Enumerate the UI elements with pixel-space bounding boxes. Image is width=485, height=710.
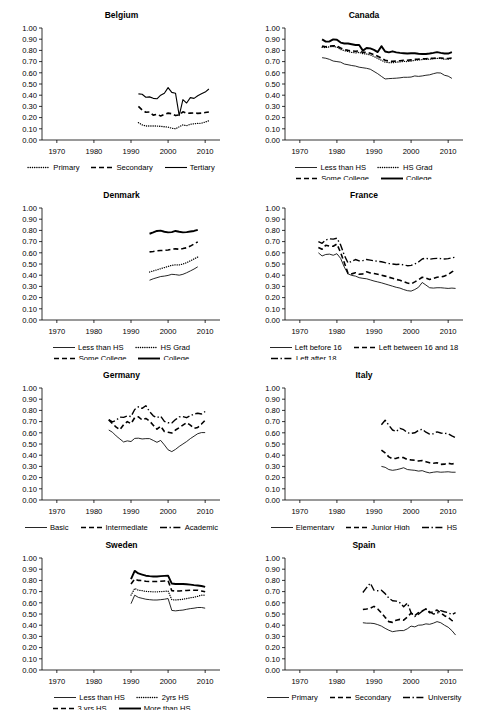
y-tick-label: 0.70	[22, 587, 37, 596]
legend-item-hs-grad[interactable]: HS Grad	[136, 342, 191, 353]
legend-swatch-icon	[53, 344, 75, 351]
legend-item-hs-grad[interactable]: HS Grad	[378, 162, 433, 173]
panel-legend: ElementaryJunior HighHS	[243, 522, 485, 530]
x-tick-label: 1990	[366, 507, 383, 516]
series-line-more-than-hs	[131, 571, 205, 587]
legend-item-less-than-hs[interactable]: Less than HS	[54, 692, 125, 703]
series-line-some-college	[150, 242, 198, 252]
legend-label: More than HS	[144, 703, 191, 710]
x-tick-label: 1990	[366, 147, 383, 156]
chart-grid: Belgium1.000.900.800.700.600.500.400.300…	[0, 0, 485, 710]
legend-item-secondary[interactable]: Secondary	[330, 692, 391, 703]
y-tick-label: 0.60	[265, 249, 280, 258]
legend-item-3-yrs-hs[interactable]: 3 yrs HS	[53, 703, 107, 710]
x-tick-label: 1980	[328, 327, 345, 336]
y-tick-label: 0.20	[22, 473, 37, 482]
x-tick-label: 2000	[403, 327, 420, 336]
legend-item-less-than-hs[interactable]: Less than HS	[295, 162, 366, 173]
y-tick-label: 0.30	[22, 102, 37, 111]
y-tick-label: 0.80	[265, 406, 280, 415]
x-tick-label: 1970	[48, 507, 65, 516]
y-tick-label: 0.70	[265, 417, 280, 426]
y-tick-label: 0.80	[22, 226, 37, 235]
panel-legend: Less than HS2yrs HS3 yrs HSMore than HS	[0, 692, 243, 710]
legend-item-less-than-hs[interactable]: Less than HS	[53, 342, 124, 353]
y-tick-label: 1.00	[22, 204, 37, 213]
legend-swatch-icon	[53, 705, 75, 710]
legend-item-some-college[interactable]: Some College	[296, 173, 369, 180]
y-tick-label: 0.50	[22, 440, 37, 449]
legend-item-some-college[interactable]: Some College	[54, 353, 127, 360]
legend-label: HS Grad	[403, 162, 433, 173]
legend-label: Tertiary	[190, 162, 215, 173]
series-line-primary	[363, 622, 456, 635]
y-tick-label: 0.40	[22, 621, 37, 630]
legend-item-primary[interactable]: Primary	[267, 692, 318, 703]
y-tick-label: 0.00	[22, 136, 37, 145]
chart-panel-germany: Germany1.000.900.800.700.600.500.400.300…	[0, 360, 243, 530]
legend-item-intermediate[interactable]: Intermediate	[81, 522, 148, 530]
x-tick-label: 1980	[85, 327, 102, 336]
series-line-secondary	[138, 106, 208, 116]
legend-item-university[interactable]: University	[403, 692, 461, 703]
legend-item-secondary[interactable]: Secondary	[91, 162, 152, 173]
legend-label: Some College	[321, 173, 369, 180]
x-tick-label: 1970	[48, 147, 65, 156]
legend-label: Elementary	[296, 522, 334, 530]
y-tick-label: 0.50	[265, 610, 280, 619]
series-line-college	[322, 39, 452, 54]
y-tick-label: 0.10	[22, 125, 37, 134]
legend-item-tertiary[interactable]: Tertiary	[165, 162, 215, 173]
legend-item-elementary[interactable]: Elementary	[271, 522, 334, 530]
legend-item-left-between-16-and-18[interactable]: Left between 16 and 18	[354, 342, 458, 353]
chart-panel-denmark: Denmark1.000.900.800.700.600.500.400.300…	[0, 180, 243, 360]
legend-item-college[interactable]: College	[381, 173, 432, 180]
x-tick-label: 2010	[197, 327, 214, 336]
legend-item-hs[interactable]: HS	[422, 522, 458, 530]
y-tick-label: 0.40	[22, 451, 37, 460]
y-tick-label: 0.90	[22, 565, 37, 574]
legend-label: Left after 18	[296, 353, 337, 360]
y-tick-label: 0.50	[265, 440, 280, 449]
legend-label: Primary	[53, 162, 79, 173]
legend-label: Secondary	[355, 692, 391, 703]
y-tick-label: 0.30	[265, 282, 280, 291]
legend-swatch-icon	[267, 694, 289, 701]
legend-item-left-after-18[interactable]: Left after 18	[271, 353, 337, 360]
y-tick-label: 0.30	[265, 462, 280, 471]
y-tick-label: 0.80	[22, 406, 37, 415]
y-tick-label: 0.00	[22, 666, 37, 675]
x-tick-label: 2010	[440, 507, 457, 516]
legend-item-college[interactable]: College	[138, 353, 189, 360]
y-tick-label: 0.80	[22, 46, 37, 55]
panel-legend: Less than HSHS GradSome CollegeCollege	[0, 342, 243, 360]
y-tick-label: 0.30	[265, 632, 280, 641]
x-tick-label: 1970	[291, 507, 308, 516]
legend-item-more-than-hs[interactable]: More than HS	[119, 703, 191, 710]
y-tick-label: 0.70	[265, 587, 280, 596]
legend-swatch-icon	[378, 164, 400, 171]
panel-legend: PrimarySecondaryUniversity	[243, 692, 485, 703]
legend-item-2yrs-hs[interactable]: 2yrs HS	[137, 692, 189, 703]
y-tick-label: 0.90	[265, 215, 280, 224]
x-tick-label: 2000	[160, 507, 177, 516]
series-line-elementary	[381, 466, 455, 473]
chart-panel-belgium: Belgium1.000.900.800.700.600.500.400.300…	[0, 0, 243, 180]
y-tick-label: 0.60	[265, 599, 280, 608]
x-tick-label: 2000	[160, 327, 177, 336]
y-tick-label: 0.20	[22, 113, 37, 122]
plot-area: 1.000.900.800.700.600.500.400.300.200.10…	[243, 0, 485, 165]
legend-item-left-before-16[interactable]: Left before 16	[270, 342, 342, 353]
y-tick-label: 0.70	[22, 237, 37, 246]
legend-swatch-icon	[403, 694, 425, 701]
y-tick-label: 0.90	[22, 35, 37, 44]
legend-item-basic[interactable]: Basic	[25, 522, 69, 530]
legend-label: Basic	[50, 522, 69, 530]
legend-item-junior-high[interactable]: Junior High	[346, 522, 409, 530]
legend-item-primary[interactable]: Primary	[28, 162, 79, 173]
legend-item-academic[interactable]: Academic	[160, 522, 218, 530]
y-tick-label: 0.50	[22, 80, 37, 89]
y-tick-label: 0.30	[22, 462, 37, 471]
legend-swatch-icon	[330, 694, 352, 701]
y-tick-label: 0.30	[265, 102, 280, 111]
